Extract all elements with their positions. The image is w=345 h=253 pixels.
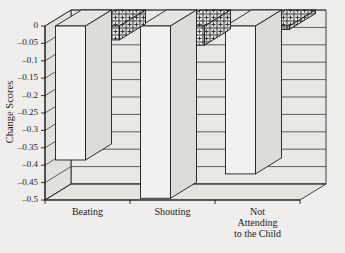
category-label: Shouting	[154, 206, 190, 217]
category-label: NotAttendingto the Child	[234, 206, 281, 239]
chart-container: 0–0.05–0.1–0.15–0.2–0.25–0.3–0.35–0.4–0.…	[0, 0, 345, 253]
category-label: Beating	[72, 206, 103, 217]
bar-shouting-series-1	[141, 10, 197, 198]
y-tick-label: –0.2	[21, 90, 38, 100]
change-scores-bar-chart: 0–0.05–0.1–0.15–0.2–0.25–0.3–0.35–0.4–0.…	[0, 0, 345, 253]
x-axis-tickmarks	[45, 200, 300, 204]
y-tick-label: –0.05	[17, 37, 39, 47]
y-axis-ticks	[41, 26, 45, 200]
y-tick-label: 0	[34, 20, 39, 30]
y-tick-label: –0.45	[17, 177, 39, 187]
category-labels: BeatingShoutingNotAttendingto the Child	[72, 206, 281, 239]
y-axis-tick-labels: 0–0.05–0.1–0.15–0.2–0.25–0.3–0.35–0.4–0.…	[17, 20, 39, 204]
y-tick-label: –0.15	[17, 72, 39, 82]
y-tick-label: –0.25	[17, 107, 39, 117]
y-axis-title: Change Scores	[4, 81, 15, 144]
y-tick-label: –0.1	[21, 55, 38, 65]
bar-beating-series-1	[56, 10, 112, 160]
y-tick-label: –0.4	[21, 159, 38, 169]
y-tick-label: –0.3	[21, 124, 38, 134]
y-tick-label: –0.5	[21, 194, 38, 204]
bar-not-attending-to-the-child-series-1	[226, 10, 282, 174]
y-tick-label: –0.35	[17, 142, 39, 152]
